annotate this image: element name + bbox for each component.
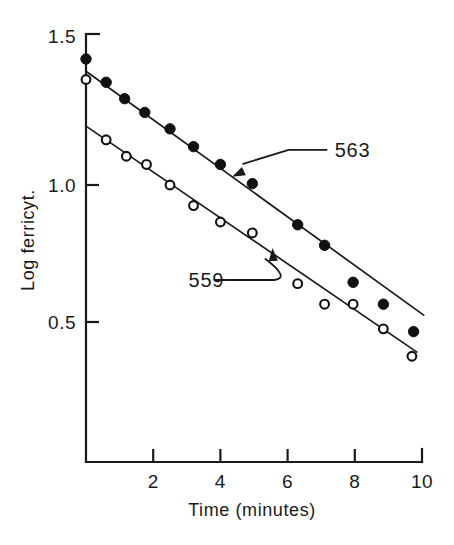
data-point-559 [189,201,198,210]
scatter-plot-svg: 0.51.01.5 246810 563559 Time (minutes) L… [0,0,454,545]
y-axis-title: Log ferricyt. [18,189,38,291]
series-label-563: 563 [335,139,371,161]
data-point-559 [122,152,131,161]
x-tick-label: 10 [411,471,433,492]
annotation-leader-563 [243,150,326,164]
x-axis-ticks [153,449,355,462]
x-tick-label: 8 [349,471,360,492]
data-point-559 [248,229,257,238]
data-point-559 [349,300,358,309]
x-tick-label: 4 [215,471,226,492]
data-point-563 [348,277,358,287]
y-axis-tick-labels: 0.51.01.5 [48,26,76,333]
data-point-563 [140,107,150,117]
data-point-559 [142,160,151,169]
data-point-563 [378,299,388,309]
series-label-559: 559 [188,269,224,291]
annotation-leader-559 [214,259,280,280]
data-point-563 [408,326,418,336]
data-point-563 [101,77,111,87]
data-point-563 [188,141,198,151]
y-tick-label: 1.5 [48,26,76,47]
data-point-559 [293,279,302,288]
x-tick-label: 6 [282,471,293,492]
x-axis-title: Time (minutes) [188,500,316,520]
x-tick-label: 2 [148,471,159,492]
data-point-559 [166,181,175,190]
x-axis-tick-labels: 246810 [148,471,433,492]
y-axis-ticks [86,185,99,322]
data-point-559 [379,324,388,333]
series-data-points [81,54,419,361]
series-fit-lines [86,71,424,352]
data-point-563 [319,240,329,250]
data-point-559 [82,75,91,84]
data-point-563 [119,93,129,103]
data-point-559 [216,218,225,227]
annotation-arrowhead-563 [230,167,246,181]
data-point-559 [320,300,329,309]
data-point-563 [215,159,225,169]
chart-figure: 0.51.01.5 246810 563559 Time (minutes) L… [0,0,454,545]
annotation-arrowhead-559 [268,248,278,262]
y-tick-label: 0.5 [48,312,76,333]
y-tick-label: 1.0 [48,175,76,196]
data-point-559 [408,352,417,361]
data-point-563 [81,54,91,64]
plot-axes [86,34,422,462]
data-point-559 [102,135,111,144]
data-point-563 [292,220,302,230]
data-point-563 [247,178,257,188]
fit-line-563 [86,71,424,315]
data-point-563 [165,124,175,134]
